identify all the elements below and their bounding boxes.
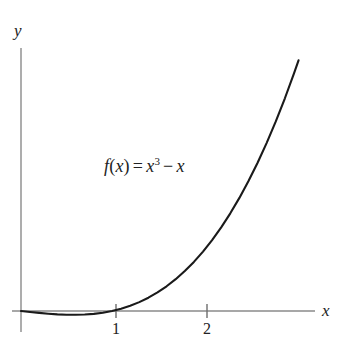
plot-canvas	[0, 0, 351, 360]
formula-minus-sign: −	[160, 156, 176, 176]
y-axis-label: y	[14, 22, 22, 39]
x-tick-label-2: 2	[197, 321, 217, 337]
function-plot-figure: y x 1 2 f(x)=x3−x	[0, 0, 351, 360]
formula-equals-sign: =	[130, 156, 146, 176]
formula-argument: x	[115, 156, 123, 176]
function-formula-annotation: f(x)=x3−x	[104, 157, 185, 175]
formula-trailing-variable: x	[176, 156, 184, 176]
x-axis-label: x	[322, 302, 330, 319]
function-curve	[21, 60, 299, 314]
formula-close-paren: )	[124, 156, 130, 176]
x-tick-label-1: 1	[106, 321, 126, 337]
